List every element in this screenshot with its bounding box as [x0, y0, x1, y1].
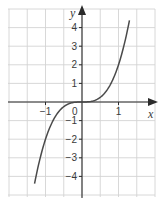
y-tick-label: −2 — [66, 134, 78, 145]
cubic-function-graph: 4321−1−2−3−4−11 x y 0 — [0, 0, 162, 204]
y-tick-label: 1 — [71, 78, 77, 89]
y-tick-label: 4 — [71, 22, 77, 33]
y-axis-arrow-icon — [78, 5, 86, 15]
y-tick-label: −3 — [66, 152, 78, 163]
y-tick-label: 3 — [71, 41, 77, 52]
y-tick-label: 2 — [71, 59, 77, 70]
x-axis-arrow-icon — [148, 98, 158, 106]
x-tick-label: −1 — [40, 106, 52, 117]
y-axis-label: y — [69, 6, 76, 20]
y-tick-label: −4 — [66, 171, 78, 182]
x-tick-label: 1 — [116, 106, 122, 117]
origin-label: 0 — [72, 106, 78, 117]
x-axis-label: x — [147, 107, 154, 121]
